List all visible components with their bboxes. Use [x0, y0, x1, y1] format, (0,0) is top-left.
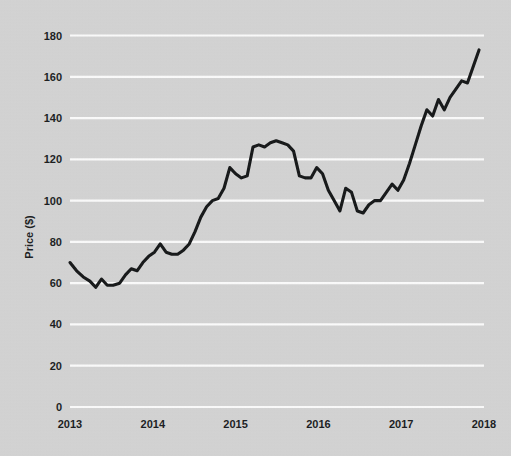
y-tick-160: 160: [44, 71, 62, 83]
y-axis-title: Price ($): [23, 215, 35, 259]
y-tick-20: 20: [50, 360, 62, 372]
x-tick-2014: 2014: [141, 418, 166, 430]
chart-background: [0, 0, 511, 456]
x-tick-2018: 2018: [472, 418, 496, 430]
y-tick-140: 140: [44, 112, 62, 124]
y-tick-180: 180: [44, 30, 62, 42]
y-tick-0: 0: [56, 401, 62, 413]
x-tick-2016: 2016: [306, 418, 330, 430]
y-tick-60: 60: [50, 277, 62, 289]
y-tick-40: 40: [50, 318, 62, 330]
x-tick-2017: 2017: [389, 418, 413, 430]
y-axis-label: Price ($): [23, 215, 35, 259]
chart-canvas: 020406080100120140160180 201320142015201…: [0, 0, 511, 456]
y-tick-100: 100: [44, 195, 62, 207]
x-tick-2013: 2013: [58, 418, 82, 430]
y-tick-80: 80: [50, 236, 62, 248]
x-tick-2015: 2015: [223, 418, 247, 430]
price-line-chart: 020406080100120140160180 201320142015201…: [0, 0, 511, 456]
y-tick-120: 120: [44, 153, 62, 165]
